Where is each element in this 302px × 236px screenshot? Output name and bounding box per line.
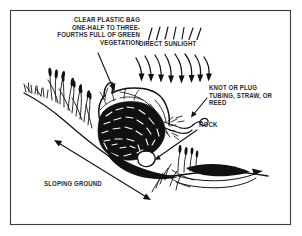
label-rock: ROCK	[199, 121, 217, 129]
figure-panel: CLEAR PLASTIC BAG ONE-HALF TO THREE- FOU…	[0, 0, 302, 236]
rock-shape	[137, 151, 155, 167]
label-clear-plastic-bag: CLEAR PLASTIC BAG ONE-HALF TO THREE- FOU…	[44, 16, 140, 46]
label-sloping-ground: SLOPING GROUND	[44, 180, 102, 188]
label-knot-or-plug: KNOT OR PLUG TUBING, STRAW, OR REED	[209, 84, 272, 107]
label-direct-sunlight: DIRECT SUNLIGHT	[139, 40, 196, 48]
